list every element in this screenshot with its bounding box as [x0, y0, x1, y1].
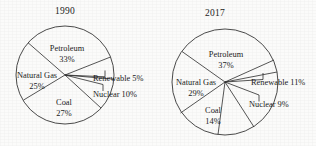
chart-2017-label-natural-gas-value: 29% [188, 89, 203, 98]
chart-2017-label-coal-value: 14% [205, 117, 220, 126]
chart-1990-label-coal-name: Coal [56, 98, 72, 107]
chart-1990-label-nuclear: Nuclear 10% [93, 90, 137, 99]
chart-1990-label-petroleum-value: 33% [59, 55, 74, 64]
chart-2017-label-petroleum-name: Petroleum [209, 50, 244, 59]
chart-1990-title: 1990 [55, 6, 75, 16]
chart-2017-label-coal-name: Coal [205, 106, 221, 115]
chart-2017-label-nuclear: Nuclear 9% [249, 100, 289, 109]
chart-2017: 2017 Petroleum 37% Natural Gas 29% Coal … [172, 8, 305, 135]
chart-1990-label-natural-gas-value: 25% [29, 82, 44, 91]
figure-canvas: 1990 Petroleum 33% Natural Gas 25% Coal … [0, 0, 316, 146]
chart-2017-label-natural-gas-name: Natural Gas [176, 78, 216, 87]
chart-1990-label-natural-gas-name: Natural Gas [17, 71, 57, 80]
chart-2017-label-petroleum-value: 37% [218, 61, 233, 70]
chart-2017-label-renewable: Renewable 11% [251, 78, 305, 87]
chart-1990-label-renewable: Renewable 5% [93, 74, 143, 83]
chart-2017-title: 2017 [205, 8, 225, 18]
pie-charts-figure: 1990 Petroleum 33% Natural Gas 25% Coal … [0, 0, 316, 146]
chart-1990-label-coal-value: 27% [56, 109, 71, 118]
chart-1990-label-petroleum-name: Petroleum [50, 44, 85, 53]
chart-1990: 1990 Petroleum 33% Natural Gas 25% Coal … [16, 6, 143, 124]
